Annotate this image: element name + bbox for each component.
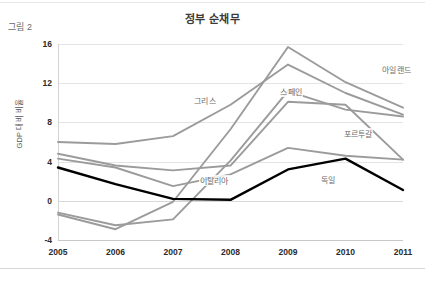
y-axis-title: GDP 대비 비율: [13, 84, 24, 164]
x-tick-label: 2010: [326, 247, 366, 257]
series-label: 스페인: [279, 86, 303, 97]
footer-divider: [0, 268, 425, 269]
top-divider: [0, 2, 425, 3]
series-line: [58, 148, 403, 186]
y-tick-label: 16: [26, 39, 52, 49]
series-label: 그리스: [193, 95, 217, 106]
y-tick-label: 8: [26, 117, 52, 127]
y-tick-label: 4: [26, 157, 52, 167]
x-tick-label: 2005: [38, 247, 78, 257]
x-tick-label: 2009: [268, 247, 308, 257]
chart-lines: [58, 44, 403, 240]
chart-page: 그림 2 정부 순채무 GDP 대비 비율 1612840-4 20052006…: [0, 0, 425, 285]
y-tick-label: 0: [26, 196, 52, 206]
chart-title: 정부 순채무: [0, 10, 425, 26]
series-label: 이탈리아: [199, 175, 230, 186]
y-tick-label: 12: [26, 78, 52, 88]
x-axis-line: [58, 240, 403, 241]
x-tick-label: 2006: [96, 247, 136, 257]
x-tick-label: 2007: [153, 247, 193, 257]
x-axis-ticks: 2005200620072008200920102011: [58, 247, 403, 263]
series-label: 포르투갈: [343, 128, 374, 139]
y-axis-ticks: 1612840-4: [24, 44, 52, 240]
y-tick-label: -4: [26, 235, 52, 245]
series-label: 독일: [320, 174, 336, 185]
series-label: 아일랜드: [381, 64, 412, 75]
x-tick-label: 2011: [383, 247, 423, 257]
x-tick-label: 2008: [211, 247, 251, 257]
